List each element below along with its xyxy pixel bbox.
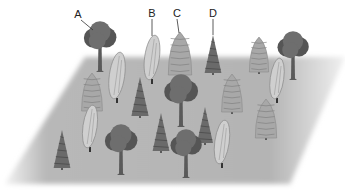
cypress-tree: [249, 37, 268, 74]
cypress-tree: [222, 74, 243, 114]
svg-text:A: A: [74, 8, 82, 20]
label-d: D: [209, 7, 217, 35]
label-a: A: [74, 8, 93, 30]
cypress-tree: [255, 99, 276, 140]
svg-text:C: C: [173, 7, 181, 19]
svg-text:B: B: [148, 7, 155, 19]
svg-text:D: D: [209, 7, 217, 19]
label-b: B: [148, 7, 155, 36]
cypress-tree: [168, 32, 191, 77]
spruce-tree: [205, 35, 222, 75]
tree-stand-diagram: ABCD: [0, 0, 345, 194]
label-c: C: [173, 7, 181, 33]
